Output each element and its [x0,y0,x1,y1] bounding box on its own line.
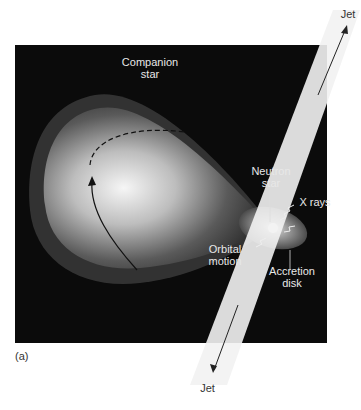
panel-label: (a) [15,350,35,362]
neutron-star-label: Neutron star [246,165,296,189]
orbital-motion-label: Orbital motion [200,243,250,267]
jet-bottom-label: Jet [195,382,220,394]
accretion-disk-label: Accretion disk [262,265,322,289]
jet-top-label: Jet [335,8,361,20]
x-rays-label: X rays [295,196,335,208]
companion-star-label: Companion star [110,56,190,80]
